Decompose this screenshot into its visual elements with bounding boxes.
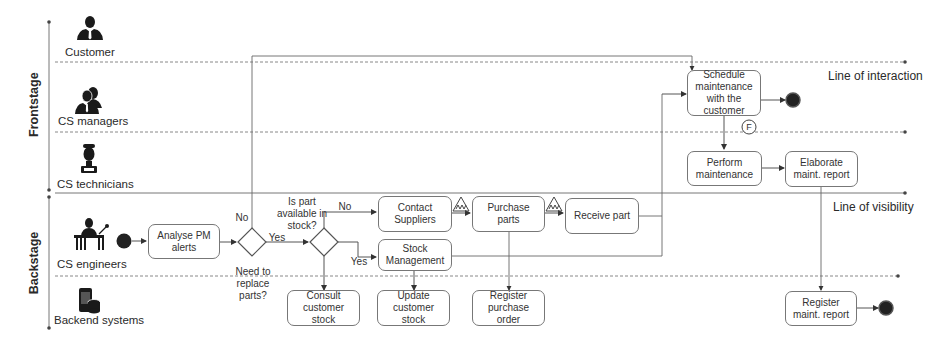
customer-icon	[73, 16, 107, 40]
activity-perform-maintenance[interactable]: Perform maintenance	[687, 151, 762, 186]
managers-icon	[72, 86, 106, 114]
feedback-marker: F	[742, 121, 756, 133]
lane-customer-label: Customer	[65, 46, 115, 58]
activity-update-customer-stock[interactable]: Update customer stock	[377, 290, 450, 326]
activity-contact-suppliers[interactable]: Contact Suppliers	[378, 196, 452, 232]
activity-elaborate-report[interactable]: Elaborate maint. report	[785, 151, 858, 187]
activity-purchase-parts[interactable]: Purchase parts	[472, 196, 545, 232]
lane-cs-technicians-label: CS technicians	[57, 178, 134, 190]
backstage-label: Backstage	[27, 231, 41, 295]
activity-register-maint-report[interactable]: Register maint. report	[785, 291, 857, 326]
activity-register-purchase-order[interactable]: Register purchase order	[472, 290, 545, 326]
backend-systems-icon	[77, 288, 101, 314]
lane-backend-systems-label: Backend systems	[54, 314, 144, 326]
line-of-visibility-label: Line of visibility	[833, 200, 914, 214]
gateway-replace-parts	[238, 228, 266, 256]
engineer-icon	[70, 218, 112, 250]
activity-analyse-pm-alerts[interactable]: Analyse PM alerts	[148, 224, 220, 259]
technician-icon	[78, 144, 100, 174]
gateway1-yes-label: Yes	[266, 232, 288, 244]
lane-cs-managers-label: CS managers	[58, 115, 128, 127]
gateway-replace-question: Need to replace parts?	[228, 266, 278, 302]
gateway-stock-question: Is part available in stock?	[270, 196, 334, 232]
gateway2-no-label: No	[336, 201, 354, 213]
gateway1-no-label: No	[232, 212, 252, 224]
frontstage-label: Frontstage	[27, 77, 41, 137]
activity-stock-management[interactable]: Stock Management	[378, 239, 452, 271]
gateway2-yes-label: Yes	[348, 256, 370, 268]
activity-consult-customer-stock[interactable]: Consult customer stock	[287, 290, 360, 326]
activity-schedule-maintenance[interactable]: Schedule maintenance with the customer	[687, 70, 761, 116]
gateway-stock-available	[310, 228, 338, 256]
activity-receive-part[interactable]: Receive part	[565, 198, 639, 234]
line-of-interaction-label: Line of interaction	[828, 69, 923, 83]
lane-cs-engineers-label: CS engineers	[57, 258, 127, 270]
